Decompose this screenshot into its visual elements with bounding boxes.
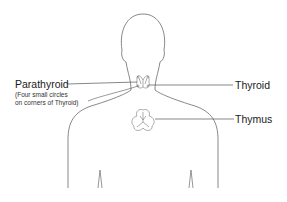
thyroid-gland-icon bbox=[137, 76, 149, 88]
parathyroid-note: (Four small circles on corners of Thyroi… bbox=[15, 91, 78, 107]
body-silhouette bbox=[68, 14, 218, 188]
thymus-gland-icon bbox=[132, 109, 154, 130]
thyroid-label: Thyroid bbox=[235, 79, 270, 91]
parathyroid-note-line-1: (Four small circles bbox=[15, 91, 78, 99]
parathyroid-note-line-2: on corners of Thyroid) bbox=[15, 99, 78, 107]
thymus-label: Thymus bbox=[235, 113, 272, 125]
parathyroid-leader-line bbox=[67, 82, 137, 84]
right-arm-crease bbox=[189, 170, 193, 188]
left-arm-crease bbox=[98, 170, 102, 188]
parathyroid-label: Parathyroid bbox=[15, 78, 69, 90]
